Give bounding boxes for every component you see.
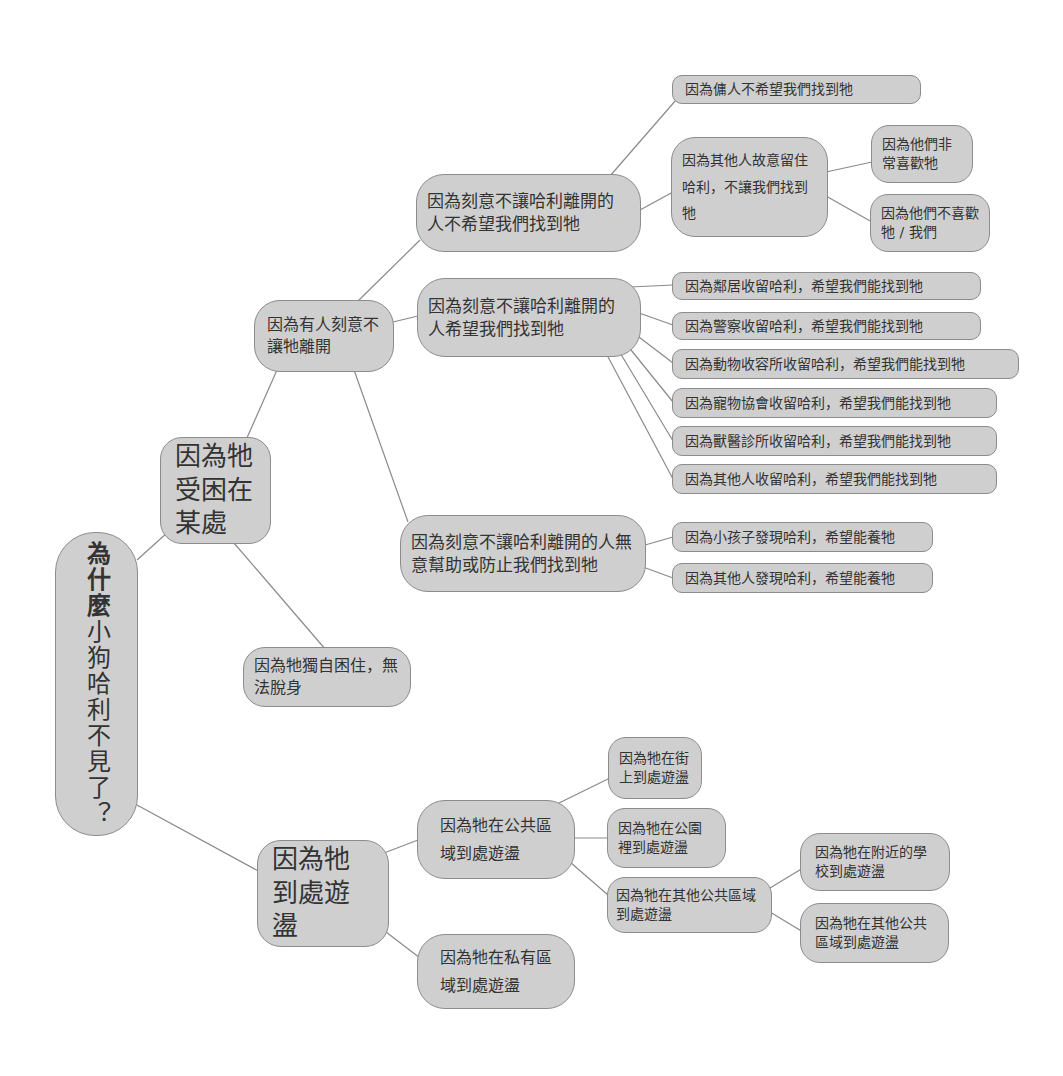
node-kept-not-want-found[interactable]: 因為刻意不讓哈利離開的人不希望我們找到牠 (416, 174, 641, 252)
node-servant-label: 因為傭人不希望我們找到牠 (685, 80, 853, 99)
node-public-area[interactable]: 因為牠在公共區域到處遊盪 (417, 800, 575, 879)
node-trapped-label: 因為牠受困在某處 (175, 440, 256, 541)
leaf-pet-association-label: 因為寵物協會收留哈利，希望我們能找到牠 (685, 394, 951, 413)
leaf-shelter[interactable]: 因為動物收容所收留哈利，希望我們能找到牠 (672, 349, 1019, 379)
node-trapped-alone-label: 因為牠獨自困住，無法脫身 (254, 655, 400, 698)
leaf-neighbor-label: 因為鄰居收留哈利，希望我們能找到牠 (685, 277, 923, 296)
node-other-public-2[interactable]: 因為牠在其他公共區域到處遊盪 (800, 903, 949, 963)
node-other-public-2-label: 因為牠在其他公共區域到處遊盪 (815, 914, 934, 952)
node-park-label: 因為牠在公園裡到處遊盪 (618, 819, 715, 857)
node-private-area-label: 因為牠在私有區域到處遊盪 (440, 944, 552, 998)
node-servant[interactable]: 因為傭人不希望我們找到牠 (672, 75, 921, 104)
leaf-vet-clinic[interactable]: 因為獸醫診所收留哈利，希望我們能找到牠 (672, 426, 997, 456)
node-wandering-label: 因為牠到處遊盪 (272, 843, 374, 944)
leaf-others-found[interactable]: 因為其他人發現哈利，希望能養牠 (672, 563, 933, 593)
node-wandering[interactable]: 因為牠到處遊盪 (257, 840, 389, 947)
node-street-label: 因為牠在街上到處遊盪 (619, 749, 693, 787)
leaf-vet-clinic-label: 因為獸醫診所收留哈利，希望我們能找到牠 (685, 432, 951, 451)
root-label-bold: 為什麼 (83, 541, 111, 619)
leaf-police[interactable]: 因為警察收留哈利，希望我們能找到牠 (672, 312, 981, 340)
node-kept-unintentional[interactable]: 因為刻意不讓哈利離開的人無意幫助或防止我們找到牠 (400, 515, 646, 592)
node-kept-unintentional-label: 因為刻意不讓哈利離開的人無意幫助或防止我們找到牠 (411, 531, 635, 577)
root-node[interactable]: 為什麼小狗哈利不見了？ (55, 532, 138, 836)
leaf-other-people[interactable]: 因為其他人收留哈利，希望我們能找到牠 (672, 464, 997, 494)
node-trapped-alone[interactable]: 因為牠獨自困住，無法脫身 (243, 647, 411, 707)
leaf-neighbor[interactable]: 因為鄰居收留哈利，希望我們能找到牠 (672, 272, 981, 300)
node-others-keep[interactable]: 因為其他人故意留住哈利，不讓我們找到牠 (671, 137, 828, 237)
leaf-pet-association[interactable]: 因為寵物協會收留哈利，希望我們能找到牠 (672, 388, 997, 418)
node-they-like-label: 因為他們非常喜歡牠 (882, 135, 962, 173)
node-other-public-label: 因為牠在其他公共區域到處遊盪 (616, 886, 763, 924)
node-others-keep-label: 因為其他人故意留住哈利，不讓我們找到牠 (682, 147, 817, 227)
node-kept-not-want-found-label: 因為刻意不讓哈利離開的人不希望我們找到牠 (427, 190, 630, 236)
node-kept-by-someone-label: 因為有人刻意不讓牠離開 (267, 314, 381, 357)
node-park[interactable]: 因為牠在公園裡到處遊盪 (607, 808, 726, 868)
node-they-dislike[interactable]: 因為他們不喜歡牠 / 我們 (870, 194, 990, 252)
node-public-area-label: 因為牠在公共區域到處遊盪 (440, 812, 552, 866)
leaf-shelter-label: 因為動物收容所收留哈利，希望我們能找到牠 (685, 355, 965, 374)
node-school-label: 因為牠在附近的學校到處遊盪 (815, 843, 935, 881)
root-label: 為什麼小狗哈利不見了？ (85, 541, 109, 827)
node-kept-want-found[interactable]: 因為刻意不讓哈利離開的人希望我們找到牠 (417, 278, 641, 357)
node-they-dislike-label: 因為他們不喜歡牠 / 我們 (881, 204, 979, 242)
leaf-others-found-label: 因為其他人發現哈利，希望能養牠 (685, 569, 895, 588)
node-other-public[interactable]: 因為牠在其他公共區域到處遊盪 (607, 877, 772, 933)
node-kept-want-found-label: 因為刻意不讓哈利離開的人希望我們找到牠 (428, 295, 630, 341)
leaf-children-label: 因為小孩子發現哈利，希望能養牠 (685, 528, 895, 547)
leaf-other-people-label: 因為其他人收留哈利，希望我們能找到牠 (685, 470, 937, 489)
leaf-children[interactable]: 因為小孩子發現哈利，希望能養牠 (672, 522, 933, 552)
mind-map-canvas: 為什麼小狗哈利不見了？ 因為牠受困在某處 因為牠到處遊盪 因為有人刻意不讓牠離開… (0, 0, 1063, 1076)
node-they-like[interactable]: 因為他們非常喜歡牠 (871, 125, 973, 183)
leaf-police-label: 因為警察收留哈利，希望我們能找到牠 (685, 317, 923, 336)
node-school[interactable]: 因為牠在附近的學校到處遊盪 (800, 833, 950, 891)
node-kept-by-someone[interactable]: 因為有人刻意不讓牠離開 (254, 300, 394, 372)
root-label-rest: 小狗哈利不見了？ (83, 619, 111, 827)
node-street[interactable]: 因為牠在街上到處遊盪 (608, 737, 702, 799)
node-trapped[interactable]: 因為牠受困在某處 (160, 437, 271, 544)
node-private-area[interactable]: 因為牠在私有區域到處遊盪 (417, 934, 575, 1009)
